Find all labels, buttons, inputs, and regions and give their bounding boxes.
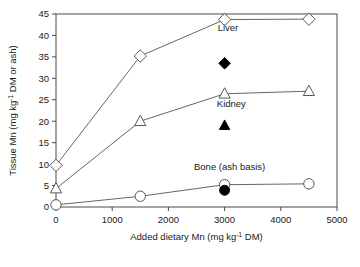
marker-open-diamond xyxy=(134,50,146,62)
y-tick-label: 25 xyxy=(38,94,49,105)
marker-filled-triangle xyxy=(219,120,229,130)
y-tick-label: 30 xyxy=(38,73,49,84)
x-tick-label: 1000 xyxy=(102,214,123,225)
marker-open-diamond xyxy=(50,159,62,171)
x-tick-label: 2000 xyxy=(158,214,179,225)
x-tick-label: 5000 xyxy=(326,214,347,225)
series-label-kidney: Kidney xyxy=(217,98,246,109)
marker-filled-diamond xyxy=(219,58,231,70)
series-line-open-triangle xyxy=(56,91,309,188)
y-tick-label: 40 xyxy=(38,30,49,41)
series-label-bone-ash-basis: Bone (ash basis) xyxy=(194,161,265,172)
y-tick-label: 0 xyxy=(44,201,49,212)
marker-open-circle xyxy=(304,179,314,189)
x-tick-label: 0 xyxy=(53,214,58,225)
marker-open-triangle xyxy=(50,183,61,193)
y-tick-label: 15 xyxy=(38,137,49,148)
y-axis-title: Tissue Mn (mg kg-1 DM or ash) xyxy=(7,45,18,176)
series-label-liver: Liver xyxy=(218,22,239,33)
y-tick-label: 10 xyxy=(38,159,49,170)
x-axis-title: Added dietary Mn (mg kg-1 DM) xyxy=(130,231,263,242)
chart-figure: 051015202530354045010002000300040005000A… xyxy=(0,0,360,267)
marker-open-circle xyxy=(135,191,145,201)
series-line-open-circle xyxy=(56,184,309,205)
y-tick-label: 5 xyxy=(44,180,49,191)
x-tick-label: 3000 xyxy=(214,214,235,225)
marker-open-triangle xyxy=(219,88,230,98)
y-tick-label: 35 xyxy=(38,51,49,62)
marker-open-circle xyxy=(51,200,61,210)
marker-filled-circle xyxy=(220,185,230,195)
x-tick-label: 4000 xyxy=(270,214,291,225)
y-tick-label: 20 xyxy=(38,116,49,127)
chart-svg: 051015202530354045010002000300040005000A… xyxy=(0,0,360,267)
y-tick-label: 45 xyxy=(38,8,49,19)
marker-open-triangle xyxy=(303,85,314,95)
marker-open-diamond xyxy=(303,13,315,25)
